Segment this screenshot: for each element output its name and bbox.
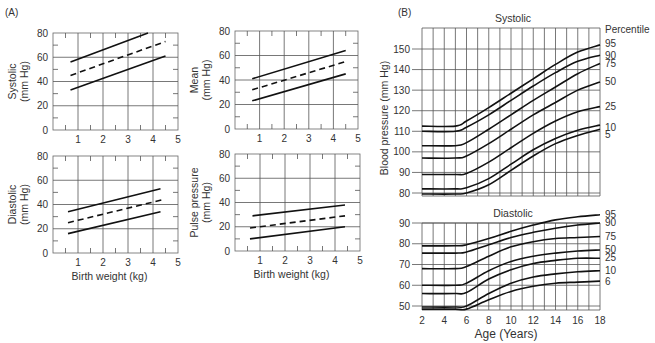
y-tick-label: 0 — [224, 246, 230, 257]
percentile-5-label: 5 — [605, 129, 611, 140]
y-tick-label: 140 — [393, 64, 410, 75]
series-mean-line — [71, 41, 166, 75]
x-tick-label: 4 — [332, 255, 338, 266]
x-tick-label: 2 — [282, 255, 288, 266]
x-tick-label: 2 — [100, 257, 106, 268]
y-tick-label: 80 — [399, 238, 411, 249]
y-tick-label: 0 — [224, 124, 230, 135]
x-tick-label: 3 — [125, 134, 131, 145]
y-axis-label: Pulse pressure — [188, 167, 200, 237]
diastolic-age-percentile-plot: 5060708090Diastolic959075502510624681012… — [399, 207, 617, 341]
y-tick-label: 60 — [37, 52, 49, 63]
y-tick-label: 20 — [37, 223, 49, 234]
x-tick-label: 3 — [125, 257, 131, 268]
y-tick-label: 40 — [219, 75, 231, 86]
series-mean-line — [252, 62, 345, 90]
series-mean-line — [250, 216, 345, 228]
blood-pressure-figure: (A) (B) 12345020406080Systolic(mm Hg) 12… — [0, 0, 655, 343]
x-tick-label: 8 — [486, 315, 492, 326]
y-tick-label: 80 — [37, 151, 49, 162]
x-tick-label: 1 — [75, 134, 81, 145]
y-axis-unit-label: (mm Hg) — [200, 182, 212, 223]
x-tick-label: 14 — [550, 315, 562, 326]
y-tick-label: 60 — [219, 173, 231, 184]
y-tick-label: 80 — [399, 188, 411, 199]
x-tick-label: 6 — [464, 315, 470, 326]
series-lower-line — [68, 212, 161, 234]
y-tick-label: 110 — [394, 126, 410, 137]
percentile-10-label: 10 — [605, 265, 617, 276]
y-tick-label: 100 — [393, 146, 410, 157]
pulse-pressure-birthweight-plot: 12345020406080Pulse pressure(mm Hg)Birth… — [188, 149, 363, 281]
x-tick-label: 18 — [594, 315, 606, 326]
y-tick-label: 90 — [399, 167, 411, 178]
y-tick-label: 130 — [393, 85, 410, 96]
x-tick-label: 1 — [75, 257, 81, 268]
series-upper-line — [71, 33, 149, 62]
systolic-age-percentile-plot: 8090100110120130140150Systolic9590755025… — [393, 12, 650, 199]
x-tick-label: 4 — [331, 133, 337, 144]
x-tick-label: 1 — [257, 255, 263, 266]
x-tick-label: 5 — [357, 255, 363, 266]
x-tick-label: 4 — [150, 257, 156, 268]
y-tick-label: 150 — [393, 44, 410, 55]
x-tick-label: 2 — [100, 134, 106, 145]
percentile-75-label: 75 — [605, 231, 617, 242]
x-tick-label: 3 — [307, 255, 313, 266]
y-tick-label: 60 — [219, 50, 231, 61]
y-tick-label: 40 — [37, 76, 49, 87]
y-axis-label: Systolic — [6, 63, 18, 99]
x-tick-label: 5 — [355, 133, 361, 144]
x-axis-label: Birth weight (kg) — [72, 270, 148, 282]
y-tick-label: 80 — [219, 26, 231, 37]
y-tick-label: 50 — [399, 301, 411, 312]
y-tick-label: 40 — [219, 197, 231, 208]
systolic-birthweight-plot: 12345020406080Systolic(mm Hg) — [6, 28, 181, 146]
percentile-50-label: 50 — [605, 76, 617, 87]
percentile-6-label: 6 — [605, 276, 611, 287]
y-tick-label: 70 — [399, 259, 411, 270]
diastolic-birthweight-plot: 12345020406080Diastolic(mm Hg)Birth weig… — [6, 151, 181, 283]
series-lower-line — [250, 227, 345, 239]
y-axis-unit-label: (mm Hg) — [18, 61, 30, 102]
panel-a-label: (A) — [5, 7, 18, 18]
x-tick-label: 10 — [505, 315, 517, 326]
percentile-95-label: 95 — [605, 38, 617, 49]
y-axis-unit-label: (mm Hg) — [18, 184, 30, 225]
y-tick-label: 60 — [399, 280, 411, 291]
series-upper-line — [253, 205, 346, 216]
x-tick-label: 1 — [257, 133, 263, 144]
subplot-title: Systolic — [495, 12, 531, 24]
y-axis-label: Mean — [188, 67, 200, 93]
y-axis-label: Diastolic — [6, 185, 18, 225]
y-tick-label: 80 — [37, 28, 49, 39]
b-y-axis-label: Blood pressure (mm Hg) — [378, 61, 390, 175]
percentile-90-label: 90 — [605, 217, 617, 228]
series-upper-line — [68, 189, 161, 212]
x-tick-label: 2 — [419, 315, 425, 326]
subplot-title: Diastolic — [493, 207, 533, 219]
percentile-legend-title: Percentile — [605, 24, 650, 35]
panel-b-label: (B) — [398, 7, 411, 18]
y-tick-label: 60 — [37, 175, 49, 186]
y-tick-label: 80 — [219, 149, 231, 160]
x-axis-label: Birth weight (kg) — [254, 268, 330, 280]
y-tick-label: 20 — [37, 100, 49, 111]
series-mean-line — [68, 200, 163, 223]
y-tick-label: 90 — [399, 218, 411, 229]
y-tick-label: 20 — [219, 221, 231, 232]
series-lower-line — [71, 56, 166, 90]
x-tick-label: 12 — [528, 315, 540, 326]
x-tick-label: 5 — [175, 134, 181, 145]
x-tick-label: 4 — [441, 315, 447, 326]
x-tick-label: 2 — [281, 133, 287, 144]
percentile-25-label: 25 — [605, 252, 617, 263]
y-tick-label: 120 — [393, 105, 410, 116]
series-lower-line — [252, 74, 345, 101]
x-tick-label: 5 — [175, 257, 181, 268]
mean-birthweight-plot: 12345020406080Mean(mm Hg) — [188, 26, 361, 145]
y-tick-label: 40 — [37, 199, 49, 210]
series-upper-line — [252, 51, 345, 79]
x-tick-label: 16 — [572, 315, 584, 326]
percentile-75-label: 75 — [605, 58, 617, 69]
